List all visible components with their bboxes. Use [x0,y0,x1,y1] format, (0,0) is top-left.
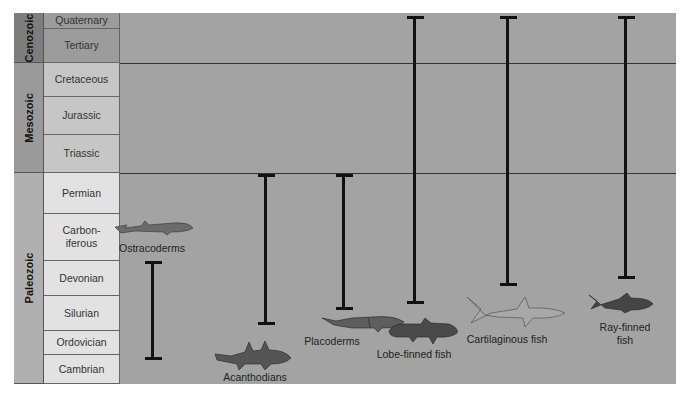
mesozoic-paleozoic-boundary [120,173,676,174]
period-cambrian: Cambrian [44,355,120,384]
range-cap-top-cartilaginous-fish [500,16,517,19]
fish-shark-icon [467,295,565,333]
range-bar-placoderms [342,175,345,310]
era-paleozoic: Paleozoic [14,173,44,384]
era-label: Cenozoic [23,13,35,62]
period-silurian: Silurian [44,296,120,331]
period-cretaceous: Cretaceous [44,63,120,97]
range-cap-bottom-cartilaginous-fish [500,283,517,286]
era-cenozoic: Cenozoic [14,13,44,63]
label-acanthodians: Acanthodians [223,371,287,384]
era-label: Paleozoic [23,253,35,304]
period-tertiary: Tertiary [44,29,120,63]
range-cap-bottom-acanthodians [258,322,275,325]
period-quaternary: Quaternary [44,13,120,29]
label-cartilaginous-fish: Cartilaginous fish [467,333,548,346]
range-bar-acanthodians [264,175,267,325]
range-cap-bottom-ostracoderms [145,357,162,360]
range-bar-ray-finned-fish [624,17,627,279]
fish-lobe-icon [387,316,459,350]
range-cap-top-lobe-finned-fish [407,16,424,19]
range-bar-lobe-finned-fish [413,17,416,304]
range-cap-bottom-lobe-finned-fish [407,301,424,304]
label-placoderms: Placoderms [304,335,359,348]
era-label: Mesozoic [23,93,35,143]
range-cap-bottom-ray-finned-fish [618,276,635,279]
period-carbon-iferous: Carbon- iferous [44,214,120,261]
cenozoic-mesozoic-boundary [120,63,676,64]
era-mesozoic: Mesozoic [14,63,44,173]
period-ordovician: Ordovician [44,331,120,355]
range-cap-top-ostracoderms [145,261,162,264]
range-bar-cartilaginous-fish [506,17,509,286]
period-permian: Permian [44,173,120,214]
label-lobe-finned-fish: Lobe-finned fish [377,348,452,361]
range-bar-ostracoderms [151,262,154,360]
period-devonian: Devonian [44,261,120,296]
period-jurassic: Jurassic [44,97,120,135]
range-cap-top-ray-finned-fish [618,16,635,19]
range-cap-bottom-placoderms [336,307,353,310]
fish-ostracoderm-icon [113,219,195,241]
fish-ray-icon [589,291,655,317]
period-triassic: Triassic [44,135,120,173]
label-ray-finned-fish: Ray-finned fish [600,321,651,347]
label-ostracoderms: Ostracoderms [119,242,185,255]
range-cap-top-placoderms [336,174,353,177]
range-cap-top-acanthodians [258,174,275,177]
geologic-time-chart: CenozoicMesozoicPaleozoic QuaternaryTert… [14,13,676,384]
